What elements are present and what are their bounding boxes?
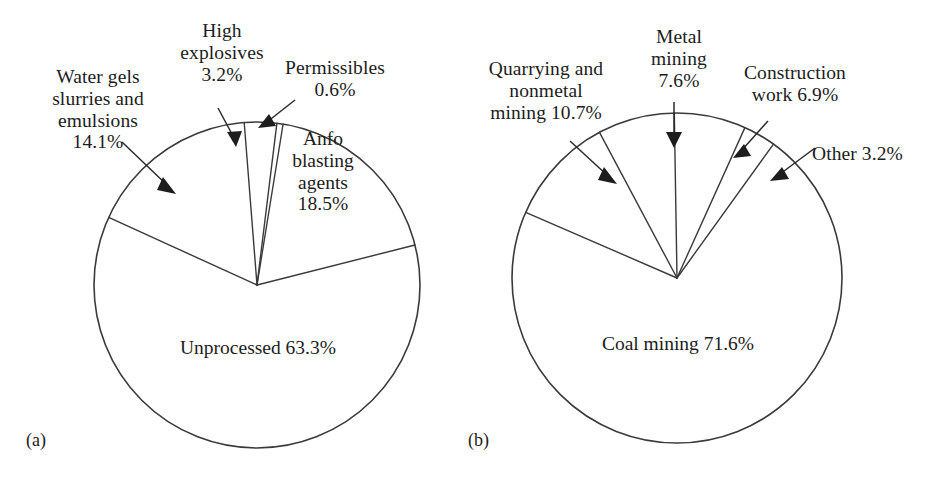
figure-two-pie-charts: Water gels slurries and emulsions 14.1% … [0, 0, 939, 482]
pie-b-label-metal-mining: Metal mining 7.6% [625, 26, 733, 91]
pie-a-edge-unprocessed-watergels [109, 217, 257, 285]
pie-b-edge-construction-other [677, 128, 745, 278]
pie-b-label-quarrying-nonmetal-mining: Quarrying and nonmetal mining 10.7% [462, 58, 630, 123]
pie-b-edge-quarrying-metal [600, 132, 678, 278]
pie-b-label-coal-mining: Coal mining 71.6% [575, 333, 781, 355]
leader-line-other [780, 148, 815, 174]
pie-a-edge-watergels-highexplosives [244, 123, 257, 286]
panel-tag-b: (b) [468, 430, 489, 451]
pie-a-label-water-gels: Water gels slurries and emulsions 14.1% [18, 66, 178, 153]
pie-chart-b [512, 102, 842, 443]
arrow-head-metal-mining [666, 132, 682, 148]
arrow-head-high-explosives [227, 131, 242, 147]
pie-b-label-other: Other 3.2% [812, 143, 932, 165]
pie-a-label-unprocessed: Unprocessed 63.3% [153, 337, 363, 359]
pie-a-label-permissibles: Permissibles 0.6% [267, 57, 403, 101]
leader-line-construction [742, 121, 768, 150]
pie-b-edge-coal-quarrying [526, 212, 677, 278]
arrow-head-construction [733, 144, 751, 158]
pie-a-label-anfo-blasting-agents: Anfo blasting agents 18.5% [264, 128, 382, 215]
pie-a-label-high-explosives: High explosives 3.2% [163, 20, 281, 85]
arrow-head-water-gels [157, 177, 176, 194]
pie-b-edge-other-coal [677, 144, 774, 278]
pie-a-edge-anfo-unprocessed [257, 245, 415, 285]
pie-b-label-construction-work: Construction work 6.9% [721, 62, 869, 106]
panel-tag-a: (a) [26, 430, 46, 451]
